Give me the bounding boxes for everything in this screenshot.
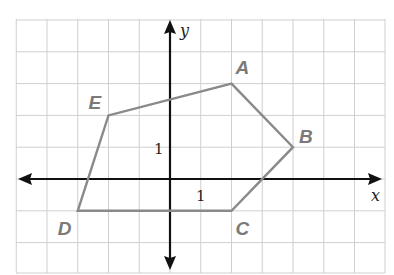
vertex-label-b: B [299, 126, 313, 147]
y-axis-label: y [179, 21, 190, 40]
y-unit-label: 1 [154, 140, 164, 158]
vertex-label-a: A [235, 57, 250, 78]
coordinate-plane: ABCDE y x 1 1 [0, 0, 394, 275]
axes [18, 20, 382, 270]
x-unit-label: 1 [196, 187, 206, 205]
vertex-label-c: C [236, 218, 250, 239]
vertex-label-e: E [89, 92, 103, 113]
y-axis-down-arrow-icon [164, 256, 176, 270]
vertex-label-d: D [58, 218, 72, 239]
x-axis-label: x [371, 186, 380, 205]
x-axis-right-arrow-icon [368, 173, 382, 185]
y-axis-up-arrow-icon [164, 20, 176, 34]
x-axis-left-arrow-icon [18, 173, 32, 185]
